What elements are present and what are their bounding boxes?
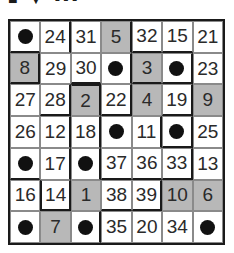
filled-circle-icon	[18, 156, 33, 171]
grid-cell[interactable]: 31	[71, 21, 101, 53]
cell-number: 5	[111, 26, 122, 48]
grid-cell[interactable]: 37	[101, 148, 131, 180]
grid-cell[interactable]: 36	[132, 148, 162, 180]
cell-number: 3	[142, 57, 153, 79]
grid-cell[interactable]: 14	[40, 180, 70, 212]
grid-cell[interactable]: 4	[132, 84, 162, 116]
title-fragment: ■ ▼ ▪▪▪	[8, 0, 80, 4]
grid-cell[interactable]: 1	[71, 180, 101, 212]
cell-number: 7	[50, 216, 61, 238]
grid-cell[interactable]: 19	[162, 84, 192, 116]
grid-cell[interactable]: 3	[132, 53, 162, 85]
cell-number: 32	[136, 25, 157, 47]
cell-number: 24	[45, 26, 66, 48]
grid-cell-dot[interactable]	[71, 148, 101, 180]
cell-number: 23	[197, 58, 218, 80]
grid-cell[interactable]: 30	[71, 53, 101, 85]
grid-cell[interactable]: 39	[132, 180, 162, 212]
grid-cell[interactable]: 17	[40, 148, 70, 180]
grid-cell[interactable]: 8	[10, 53, 40, 85]
cell-number: 21	[197, 26, 218, 48]
cell-number: 36	[136, 152, 157, 174]
cell-number: 20	[136, 216, 157, 238]
cell-number: 15	[167, 25, 188, 47]
cell-number: 38	[106, 184, 127, 206]
grid-cell[interactable]: 13	[193, 148, 223, 180]
cell-number: 6	[202, 184, 213, 206]
filled-circle-icon	[78, 156, 93, 171]
filled-circle-icon	[109, 124, 124, 139]
cell-number: 12	[45, 121, 66, 143]
grid-cell[interactable]: 9	[193, 84, 223, 116]
cell-number: 39	[136, 184, 157, 206]
cell-number: 29	[45, 58, 66, 80]
cell-number: 18	[75, 121, 96, 143]
grid-cell[interactable]: 27	[10, 84, 40, 116]
grid-cell-dot[interactable]	[10, 21, 40, 53]
grid-cell[interactable]: 33	[162, 148, 192, 180]
cell-number: 34	[167, 216, 188, 238]
cell-number: 27	[15, 89, 36, 111]
filled-circle-icon	[169, 124, 184, 139]
grid-cell[interactable]: 2	[71, 84, 101, 116]
filled-circle-icon	[169, 61, 184, 76]
number-grid: 2431532152182930323272822241992612181125…	[8, 19, 225, 245]
grid-cell[interactable]: 5	[101, 21, 131, 53]
cell-number: 2	[80, 90, 91, 112]
filled-circle-icon	[200, 220, 215, 235]
grid-cell[interactable]: 7	[40, 211, 70, 243]
grid-cell-dot[interactable]	[10, 211, 40, 243]
cell-number: 28	[45, 89, 66, 111]
cell-number: 1	[81, 184, 92, 206]
cell-number: 19	[166, 89, 187, 111]
grid-cell[interactable]: 32	[132, 21, 162, 53]
grid-cell[interactable]: 25	[193, 116, 223, 148]
cell-number: 35	[106, 216, 127, 238]
grid-cell[interactable]: 22	[101, 84, 131, 116]
cell-number: 31	[75, 26, 96, 48]
grid-cell-dot[interactable]	[162, 116, 192, 148]
cell-number: 37	[106, 152, 127, 174]
grid-cell[interactable]: 34	[162, 211, 192, 243]
grid-cell-dot[interactable]	[162, 53, 192, 85]
grid-cell[interactable]: 18	[71, 116, 101, 148]
grid-cell[interactable]: 28	[40, 84, 70, 116]
grid-cell[interactable]: 6	[193, 180, 223, 212]
grid-cell[interactable]: 20	[132, 211, 162, 243]
cell-number: 30	[75, 57, 96, 79]
grid-cell[interactable]: 21	[193, 21, 223, 53]
filled-circle-icon	[18, 220, 33, 235]
cell-number: 25	[197, 121, 218, 143]
cell-number: 17	[45, 153, 66, 175]
cell-number: 9	[202, 89, 213, 111]
filled-circle-icon	[78, 220, 93, 235]
grid-cell-dot[interactable]	[71, 211, 101, 243]
cell-number: 11	[137, 121, 157, 143]
grid-cell[interactable]: 16	[10, 180, 40, 212]
grid-cell[interactable]: 29	[40, 53, 70, 85]
cell-number: 8	[19, 57, 30, 79]
grid-cell-dot[interactable]	[101, 116, 131, 148]
grid-cell[interactable]: 23	[193, 53, 223, 85]
filled-circle-icon	[108, 61, 123, 76]
cell-number: 4	[142, 89, 153, 111]
cell-number: 26	[15, 121, 36, 143]
grid-cell[interactable]: 15	[162, 21, 192, 53]
grid-cell[interactable]: 24	[40, 21, 70, 53]
cell-number: 16	[15, 184, 36, 206]
grid-cell[interactable]: 38	[101, 180, 131, 212]
cell-number: 33	[166, 152, 187, 174]
grid-cell[interactable]: 11	[132, 116, 162, 148]
grid-cell[interactable]: 10	[162, 180, 192, 212]
grid-cell[interactable]: 35	[101, 211, 131, 243]
cell-number: 10	[167, 184, 188, 206]
cell-number: 13	[197, 153, 218, 175]
grid-cell-dot[interactable]	[101, 53, 131, 85]
cell-number: 22	[105, 89, 126, 111]
grid-cell[interactable]: 12	[40, 116, 70, 148]
grid-cell-dot[interactable]	[10, 148, 40, 180]
filled-circle-icon	[18, 29, 33, 44]
grid-cell[interactable]: 26	[10, 116, 40, 148]
cell-number: 14	[45, 184, 66, 206]
grid-cell-dot[interactable]	[193, 211, 223, 243]
